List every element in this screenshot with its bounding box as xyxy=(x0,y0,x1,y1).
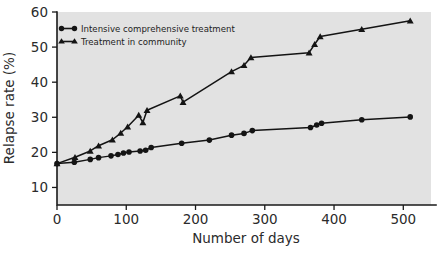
y-tick-label: 60 xyxy=(31,4,48,20)
data-point-marker-circle xyxy=(108,153,114,159)
data-point-marker-circle xyxy=(96,155,102,161)
x-tick-label: 500 xyxy=(390,211,416,227)
data-point-marker-circle xyxy=(115,152,121,158)
y-axis-title: Relapse rate (%) xyxy=(1,52,17,164)
data-point-marker-circle xyxy=(229,132,235,138)
data-point-marker-circle xyxy=(126,149,132,155)
legend-circle-marker-icon xyxy=(72,26,77,31)
data-point-marker-circle xyxy=(314,122,320,128)
relapse-rate-line-chart: 102030405060 0100200300400500 Relapse ra… xyxy=(0,0,443,253)
y-tick-label: 30 xyxy=(31,109,48,125)
data-point-marker-circle xyxy=(72,159,78,165)
data-point-marker-circle xyxy=(121,150,127,156)
x-tick-label: 200 xyxy=(183,211,209,227)
y-tick-label: 10 xyxy=(31,179,48,195)
x-tick-label: 100 xyxy=(113,211,139,227)
y-tick-label: 40 xyxy=(31,74,48,90)
legend-item-intensive-comprehensive-treatment: Intensive comprehensive treatment xyxy=(59,24,236,34)
legend-label-1: Treatment in community xyxy=(80,37,187,47)
chart-figure: 102030405060 0100200300400500 Relapse ra… xyxy=(0,0,443,253)
data-point-marker-circle xyxy=(137,148,143,154)
legend-label-0: Intensive comprehensive treatment xyxy=(81,24,235,34)
data-point-marker-circle xyxy=(359,117,365,123)
data-point-marker-circle xyxy=(143,147,149,153)
x-tick-label: 0 xyxy=(53,211,62,227)
data-point-marker-circle xyxy=(179,140,185,146)
data-point-marker-circle xyxy=(241,131,247,137)
data-point-marker-circle xyxy=(148,145,154,151)
y-tick-label: 20 xyxy=(31,144,48,160)
data-point-marker-circle xyxy=(407,114,413,120)
data-point-marker-circle xyxy=(308,125,314,131)
x-tick-label: 400 xyxy=(321,211,347,227)
data-point-marker-circle xyxy=(250,128,256,134)
data-point-marker-circle xyxy=(319,120,325,126)
legend-circle-marker-icon xyxy=(59,26,64,31)
data-point-marker-circle xyxy=(87,157,93,163)
y-tick-label: 50 xyxy=(31,39,48,55)
x-tick-label: 300 xyxy=(252,211,278,227)
data-point-marker-circle xyxy=(207,137,213,143)
x-axis-title: Number of days xyxy=(192,230,300,246)
